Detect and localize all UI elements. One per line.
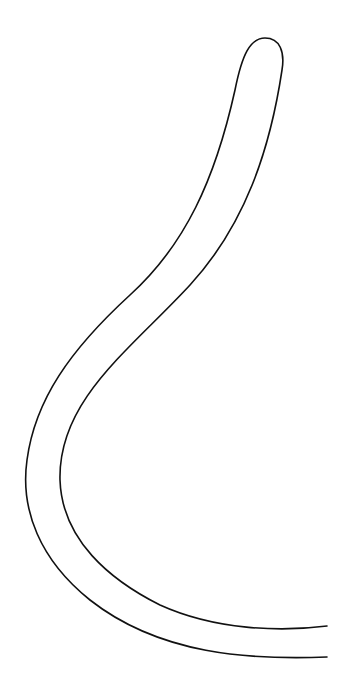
line-drawing xyxy=(0,0,350,674)
tube-outline xyxy=(26,38,327,658)
curved-tube-drawing xyxy=(0,0,350,674)
